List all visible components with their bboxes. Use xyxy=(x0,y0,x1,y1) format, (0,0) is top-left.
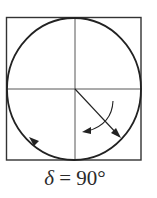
equals-sign: = xyxy=(54,166,76,190)
rotation-arrowhead xyxy=(82,127,91,134)
delta-symbol: δ xyxy=(44,166,54,190)
phase-caption: δ = 90° xyxy=(0,166,150,190)
circle-direction-arrowhead xyxy=(29,137,39,146)
field-vector xyxy=(75,89,119,136)
phase-value: 90° xyxy=(76,166,105,190)
